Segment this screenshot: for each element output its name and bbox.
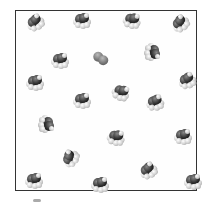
hydrogen-atom <box>134 13 140 19</box>
hydrogen-atom <box>145 54 151 60</box>
container-box <box>15 10 197 191</box>
hydrogen-atom <box>39 126 45 132</box>
caption-fragment <box>33 199 41 202</box>
polyatomic-molecule <box>26 74 44 90</box>
polyatomic-molecule <box>145 93 166 112</box>
hydrogen-atom <box>84 93 89 98</box>
polyatomic-molecule <box>73 92 91 108</box>
polyatomic-molecule <box>39 115 55 133</box>
hydrogen-atom <box>118 130 124 136</box>
hydrogen-atom <box>117 139 124 146</box>
polyatomic-molecule <box>91 176 109 192</box>
hydrogen-atom <box>133 22 140 29</box>
hydrogen-atom <box>37 75 42 80</box>
hydrogen-atom <box>36 182 42 188</box>
hydrogen-atom <box>36 173 41 178</box>
polyatomic-molecule <box>25 172 43 188</box>
polyatomic-molecule <box>145 43 161 61</box>
hydrogen-atom <box>157 103 164 110</box>
hydrogen-atom <box>84 13 89 18</box>
hydrogen-atom <box>84 102 90 108</box>
hydrogen-atom <box>62 62 68 68</box>
hydrogen-atom <box>102 186 108 192</box>
polyatomic-molecule <box>122 11 143 30</box>
polyatomic-molecule <box>73 12 91 28</box>
hydrogen-atom <box>155 93 161 99</box>
hydrogen-atom <box>185 129 190 134</box>
hydrogen-atom <box>195 174 200 179</box>
hydrogen-atom <box>102 177 107 182</box>
hydrogen-atom <box>37 84 43 90</box>
polyatomic-molecule <box>106 128 127 147</box>
polyatomic-molecule <box>174 128 192 144</box>
hydrogen-atom <box>185 138 191 144</box>
polyatomic-molecule <box>184 173 202 189</box>
hydrogen-atom <box>84 22 90 28</box>
polyatomic-molecule <box>51 52 69 68</box>
hydrogen-atom <box>62 53 67 58</box>
hydrogen-atom <box>195 183 201 189</box>
